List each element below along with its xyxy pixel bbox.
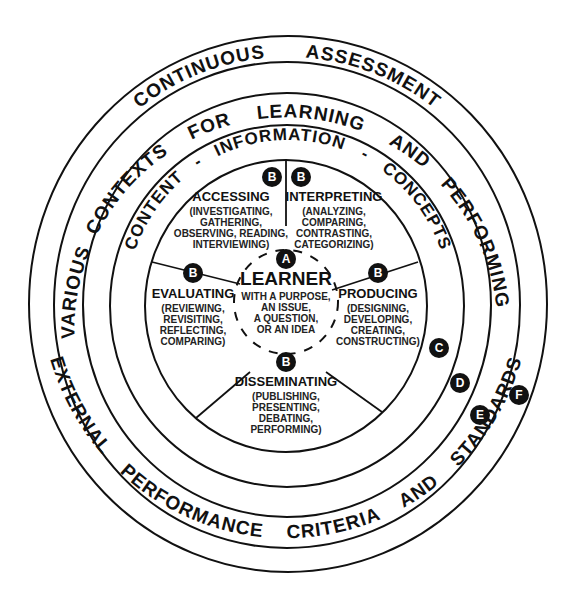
segment-line: PERFORMING) — [250, 424, 321, 435]
segment-accessing: B ACCESSING (INVESTIGATING, GATHERING, O… — [174, 167, 288, 250]
badge-letter: B — [282, 355, 291, 369]
learner-title: LEARNER — [240, 268, 332, 289]
badge-letter: B — [374, 266, 383, 280]
segment-title: INTERPRETING — [286, 189, 383, 204]
segment-title: EVALUATING — [152, 286, 235, 301]
learning-model-diagram: CONTINUOUSASSESSMENT VARIOUSCONTEXTSFORL… — [0, 0, 572, 609]
segment-line: COMPARING, — [302, 217, 366, 228]
segment-title: DISSEMINATING — [235, 374, 337, 389]
segment-line: (ANALYZING, — [302, 206, 366, 217]
segment-line: REFLECTING, — [160, 325, 227, 336]
learner-line: A QUESTION, — [254, 313, 319, 324]
badge-letter: B — [189, 266, 198, 280]
segment-line: COMPARING) — [161, 336, 226, 347]
segment-producing: B PRODUCING (DESIGNING, DEVELOPING, CREA… — [336, 263, 420, 347]
segment-line: GATHERING, — [200, 217, 262, 228]
badge-letter: A — [282, 252, 291, 266]
segment-line: DEVELOPING, — [344, 314, 413, 325]
segment-line: (INVESTIGATING, — [189, 206, 272, 217]
segment-line: CREATING, — [351, 325, 405, 336]
segment-line: INTERVIEWING) — [193, 239, 269, 250]
segment-line: CONTRASTING, — [296, 228, 372, 239]
learner-line: AN ISSUE, — [261, 302, 311, 313]
segment-interpreting: B INTERPRETING (ANALYZING, COMPARING, CO… — [286, 167, 383, 250]
segment-line: CONSTRUCTING) — [336, 336, 420, 347]
segment-evaluating: B EVALUATING (REVIEWING, REVISITING, REF… — [152, 263, 235, 347]
center-learner: A LEARNER WITH A PURPOSE, AN ISSUE, A QU… — [240, 249, 332, 335]
segment-line: (DESIGNING, — [347, 303, 409, 314]
segment-title: PRODUCING — [338, 286, 417, 301]
badge-letter: B — [268, 170, 277, 184]
segment-line: CATEGORIZING) — [294, 239, 373, 250]
learner-line: OR AN IDEA — [257, 324, 316, 335]
segment-line: DEBATING, — [259, 413, 313, 424]
badge-letter: F — [515, 388, 522, 402]
segment-line: PRESENTING, — [252, 402, 320, 413]
segment-line: (REVIEWING, — [161, 303, 225, 314]
learner-line: WITH A PURPOSE, — [241, 291, 330, 302]
segment-line: REVISITING, — [163, 314, 223, 325]
segment-disseminating: B DISSEMINATING (PUBLISHING, PRESENTING,… — [235, 352, 337, 435]
segment-line: (PUBLISHING, — [252, 391, 320, 402]
badge-letter: D — [456, 376, 465, 390]
badge-letter: B — [297, 170, 306, 184]
segment-line: OBSERVING, READING, — [174, 228, 288, 239]
segment-title: ACCESSING — [192, 189, 269, 204]
badge-letter: C — [435, 341, 444, 355]
badge-letter: E — [476, 408, 484, 422]
